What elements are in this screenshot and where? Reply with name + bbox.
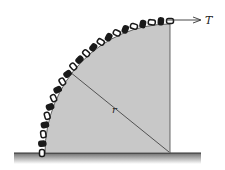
chain-link: [40, 150, 45, 157]
chain-link: [158, 18, 163, 25]
chain-link: [39, 141, 46, 146]
diagram: r T: [0, 0, 225, 170]
tension-label: T: [205, 14, 214, 27]
chain-link: [140, 20, 146, 28]
chain-on-quarter-cylinder-diagram: r T: [0, 0, 225, 170]
chain-link: [69, 62, 77, 71]
chain-link: [41, 122, 49, 128]
chain-link: [58, 77, 66, 86]
quarter-cylinder: [45, 24, 170, 153]
chain-link: [113, 29, 121, 36]
chain-link: [44, 112, 51, 120]
chain-link: [50, 94, 57, 102]
chain-link: [167, 19, 174, 24]
chain-link: [130, 23, 138, 30]
chain-link: [40, 130, 46, 138]
chain-link: [82, 49, 91, 57]
chain-link: [148, 19, 156, 25]
chain-link: [97, 38, 106, 46]
